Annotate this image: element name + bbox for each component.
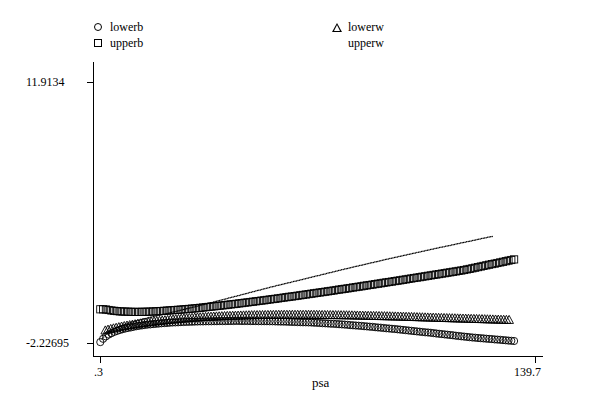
series-lowerw (101, 310, 514, 334)
chart-root: lowerb upperb lowerw upperw 11.9134 -2.2… (0, 0, 603, 411)
series-upperb (97, 256, 518, 316)
plot-area (0, 0, 603, 411)
